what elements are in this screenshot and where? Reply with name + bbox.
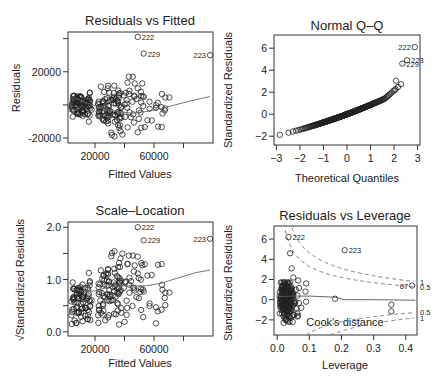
outlier-point	[286, 234, 291, 239]
data-point	[291, 275, 296, 280]
data-point	[135, 86, 140, 91]
y-tick-label: 1.0	[46, 274, 61, 286]
y-tick-label: 0	[261, 108, 267, 120]
data-point	[124, 298, 129, 303]
outlier-point	[141, 238, 146, 243]
data-point	[122, 319, 127, 324]
y-tick-label: -20000	[28, 132, 61, 144]
outlier-label: 222	[142, 33, 155, 42]
x-tick-label: 0	[344, 152, 350, 164]
data-point	[159, 124, 164, 129]
outlier-label: 223	[194, 51, 207, 60]
x-axis-label: Fitted Values	[108, 168, 172, 180]
y-tick-label: 0	[261, 294, 267, 306]
data-point	[125, 305, 130, 310]
y-tick-label: 2	[261, 273, 267, 285]
plot-area: −3−2−10123−20246222223229	[255, 35, 424, 164]
x-tick-label: 60000	[139, 343, 168, 355]
x-axis-label: Theoretical Quantiles	[295, 172, 399, 184]
y-tick-label: 4	[261, 253, 267, 265]
outlier-point	[135, 225, 140, 230]
y-tick-label: 4	[261, 64, 267, 76]
y-axis-label: √Standardized Residuals	[14, 218, 26, 341]
y-tick-label: 0.0	[46, 326, 61, 338]
panel-title: Residuals vs Fitted	[85, 13, 195, 28]
y-axis-label: Residuals	[10, 63, 22, 112]
data-point	[70, 280, 75, 285]
data-point	[167, 95, 172, 100]
outlier-label: 222	[398, 43, 411, 52]
x-tick-label: 2	[391, 152, 397, 164]
panel-residuals-vs-fitted: Residuals vs Fitted Fitted Values Residu…	[10, 13, 213, 180]
y-tick-label: 6	[261, 42, 267, 54]
data-point	[393, 78, 398, 83]
data-point	[303, 281, 308, 286]
data-point	[86, 270, 91, 275]
outlier-point	[135, 34, 140, 39]
data-point	[163, 302, 168, 307]
data-point	[132, 81, 137, 86]
data-point	[389, 309, 394, 314]
outlier-point	[141, 51, 146, 56]
cooks-level-label: 0.5	[420, 308, 430, 317]
x-axis-label: Fitted Values	[108, 357, 172, 369]
x-tick-label: −2	[294, 152, 306, 164]
y-tick-label: 20000	[32, 66, 61, 78]
x-tick-label: 0.0	[270, 342, 285, 354]
data-point	[159, 91, 164, 96]
data-point	[125, 80, 130, 85]
y-tick-label: 2	[261, 86, 267, 98]
x-tick-label: 0.4	[398, 342, 413, 354]
data-point	[277, 132, 282, 137]
data-point	[147, 99, 152, 104]
y-tick-label: −2	[255, 314, 267, 326]
panel-title: Normal Q–Q	[311, 18, 384, 33]
data-point	[86, 119, 91, 124]
data-point	[296, 285, 301, 290]
outlier-label: 222	[142, 223, 155, 232]
data-point	[289, 266, 294, 271]
panel-title: Residuals vs Leverage	[279, 208, 411, 223]
x-tick-label: 20000	[80, 150, 109, 162]
x-tick-label: 60000	[139, 150, 168, 162]
outlier-label: 223	[349, 246, 362, 255]
data-point	[126, 253, 131, 258]
x-tick-label: −1	[317, 152, 329, 164]
outlier-label: 67	[400, 282, 408, 291]
data-point	[70, 114, 75, 119]
data-point	[136, 116, 141, 121]
data-point	[126, 91, 131, 96]
x-tick-label: 0.2	[334, 342, 349, 354]
panel-residuals-vs-leverage: Residuals vs Leverage Leverage Standardi…	[222, 208, 430, 371]
data-point	[120, 251, 125, 256]
data-point	[127, 290, 132, 295]
outlier-point	[342, 248, 347, 253]
data-point	[130, 303, 135, 308]
data-point	[124, 312, 129, 317]
cooks-level-label: 0.5	[420, 283, 430, 292]
data-point	[126, 74, 131, 79]
y-axis-label: Standardized Residuals	[222, 224, 234, 341]
panel-scale-location: Scale–Location Fitted Values √Standardiz…	[14, 203, 213, 369]
data-point	[303, 299, 308, 304]
panel-normal-qq: Normal Q–Q Theoretical Quantiles Standar…	[222, 18, 424, 184]
data-point	[125, 125, 130, 130]
panel-title: Scale–Location	[96, 203, 185, 218]
y-tick-label: −2	[255, 130, 267, 142]
data-point	[295, 278, 300, 283]
data-point	[139, 307, 144, 312]
outlier-label: 229	[148, 50, 161, 59]
data-point	[96, 320, 101, 325]
data-point	[162, 295, 167, 300]
smoother-line	[279, 296, 416, 300]
outlier-point	[207, 52, 212, 57]
x-tick-label: −3	[270, 152, 282, 164]
data-point	[159, 261, 164, 266]
data-point	[155, 262, 160, 267]
data-point	[159, 105, 164, 110]
outlier-label: 223	[194, 235, 207, 244]
data-point	[98, 268, 103, 273]
outlier-label: 222	[292, 233, 305, 242]
plot-area: 20000600000.01.02.0222229223	[46, 221, 213, 355]
data-point	[130, 99, 135, 104]
